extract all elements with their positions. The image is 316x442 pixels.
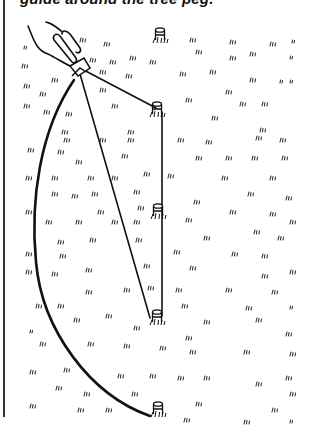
marked-arc <box>34 80 150 416</box>
peg-2-icon <box>151 204 166 219</box>
lawn-illustration <box>0 0 316 442</box>
peg-top-icon <box>153 28 168 43</box>
peg-4-icon <box>151 402 166 417</box>
hand-illustration <box>28 22 81 66</box>
